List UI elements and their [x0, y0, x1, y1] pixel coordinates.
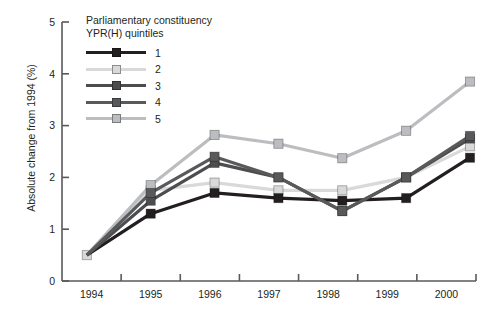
legend-swatch-1 — [86, 46, 146, 59]
legend-label-2: 2 — [155, 63, 161, 75]
legend-square-marker-icon — [112, 65, 121, 74]
legend-swatch-5 — [86, 112, 146, 125]
x-tick-label-1998: 1998 — [316, 288, 340, 300]
legend-entry-5: 5 — [86, 111, 276, 126]
data-point-1-1996 — [210, 188, 219, 197]
legend-entry-3: 3 — [86, 78, 276, 93]
data-point-1-1995 — [146, 209, 155, 218]
data-point-2-1996 — [210, 178, 219, 187]
x-tick-label-1996: 1996 — [198, 288, 222, 300]
data-point-4-1997 — [274, 173, 283, 182]
x-tick-label-1999: 1999 — [376, 288, 400, 300]
y-tick-label-3: 3 — [49, 119, 55, 131]
data-point-4-2000 — [465, 131, 474, 140]
data-point-1-1998 — [338, 196, 347, 205]
legend-label-4: 4 — [155, 96, 161, 108]
legend-entry-list: 12345 — [86, 45, 276, 126]
legend-swatch-2 — [86, 63, 146, 76]
data-point-4-1999 — [402, 173, 411, 182]
legend-entry-2: 2 — [86, 62, 276, 77]
x-tick-label-2000: 2000 — [435, 288, 459, 300]
data-point-5-1999 — [402, 126, 411, 135]
y-tick-label-0: 0 — [49, 275, 55, 287]
y-tick-label-5: 5 — [49, 16, 55, 28]
chart-legend: Parliamentary constituency YPR(H) quinti… — [86, 14, 276, 128]
data-point-1-1997 — [274, 194, 283, 203]
data-point-1-2000 — [465, 153, 474, 162]
data-point-5-2000 — [465, 77, 474, 86]
legend-square-marker-icon — [112, 114, 121, 123]
legend-title-line-1: Parliamentary constituency — [86, 14, 276, 27]
legend-title-line-2: YPR(H) quintiles — [86, 27, 276, 40]
legend-swatch-4 — [86, 96, 146, 109]
legend-entry-4: 4 — [86, 95, 276, 110]
legend-swatch-3 — [86, 79, 146, 92]
y-tick-label-2: 2 — [49, 171, 55, 183]
legend-entry-1: 1 — [86, 45, 276, 60]
data-point-4-1995 — [146, 188, 155, 197]
data-point-4-1996 — [210, 152, 219, 161]
data-point-5-1997 — [274, 139, 283, 148]
legend-label-3: 3 — [155, 80, 161, 92]
x-tick-label-1997: 1997 — [257, 288, 281, 300]
y-tick-label-1: 1 — [49, 223, 55, 235]
legend-square-marker-icon — [112, 81, 121, 90]
figure-container: Absolute change from 1994 (%) 0123451994… — [0, 0, 486, 320]
legend-label-1: 1 — [155, 47, 161, 59]
y-tick-label-4: 4 — [49, 68, 55, 80]
data-point-4-1998 — [338, 206, 347, 215]
x-tick-label-1995: 1995 — [139, 288, 163, 300]
data-point-5-1998 — [338, 154, 347, 163]
x-tick-label-1994: 1994 — [80, 288, 104, 300]
data-point-2-1998 — [338, 186, 347, 195]
legend-square-marker-icon — [112, 98, 121, 107]
legend-square-marker-icon — [112, 48, 121, 57]
data-point-1-1999 — [402, 194, 411, 203]
legend-label-5: 5 — [155, 113, 161, 125]
data-point-5-1996 — [210, 130, 219, 139]
